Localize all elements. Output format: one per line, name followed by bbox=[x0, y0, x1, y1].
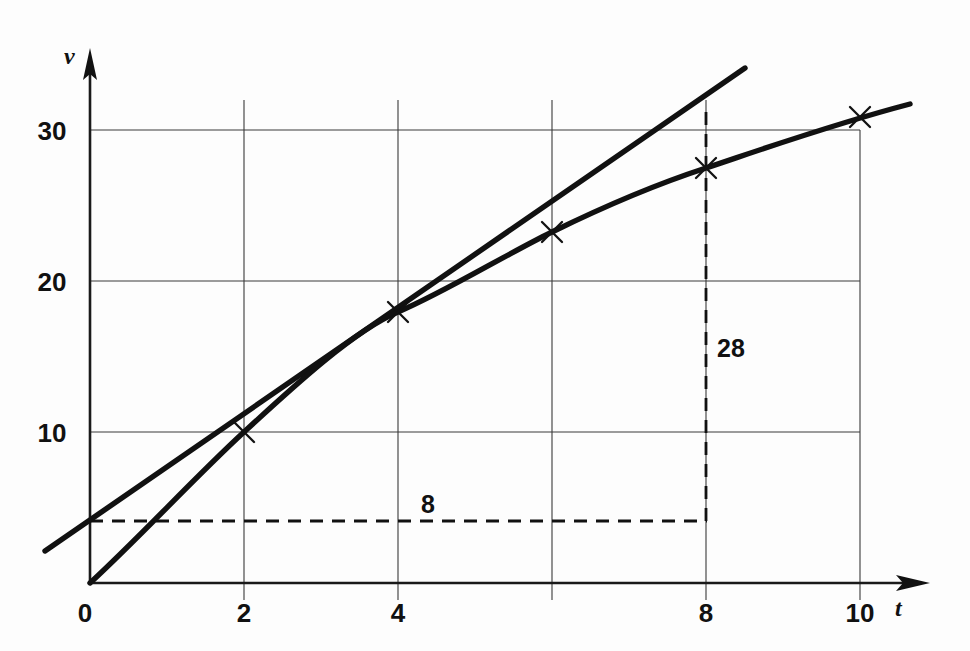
run-annotation-label: 8 bbox=[421, 490, 435, 518]
y-tick-label-30: 30 bbox=[38, 116, 67, 146]
x-tick-label-4: 4 bbox=[391, 598, 406, 628]
x-tick-label-2: 2 bbox=[237, 598, 251, 628]
velocity-curve bbox=[90, 104, 910, 583]
y-tick-labels: 30 20 10 bbox=[38, 116, 67, 448]
rise-annotation-label: 28 bbox=[717, 334, 745, 362]
x-axis-name-label: t bbox=[895, 595, 903, 621]
x-tick-label-0: 0 bbox=[78, 598, 92, 628]
y-tick-label-10: 10 bbox=[38, 418, 67, 448]
y-axis-name-label: v bbox=[64, 43, 75, 69]
chart-canvas: v t 30 20 10 0 2 4 8 10 bbox=[0, 0, 970, 651]
x-tick-label-8: 8 bbox=[699, 598, 713, 628]
x-tick-labels: 0 2 4 8 10 bbox=[78, 598, 875, 628]
x-tick-label-10: 10 bbox=[846, 598, 875, 628]
velocity-time-graph-figure: v t 30 20 10 0 2 4 8 10 bbox=[0, 0, 970, 651]
y-tick-label-20: 20 bbox=[38, 267, 67, 297]
